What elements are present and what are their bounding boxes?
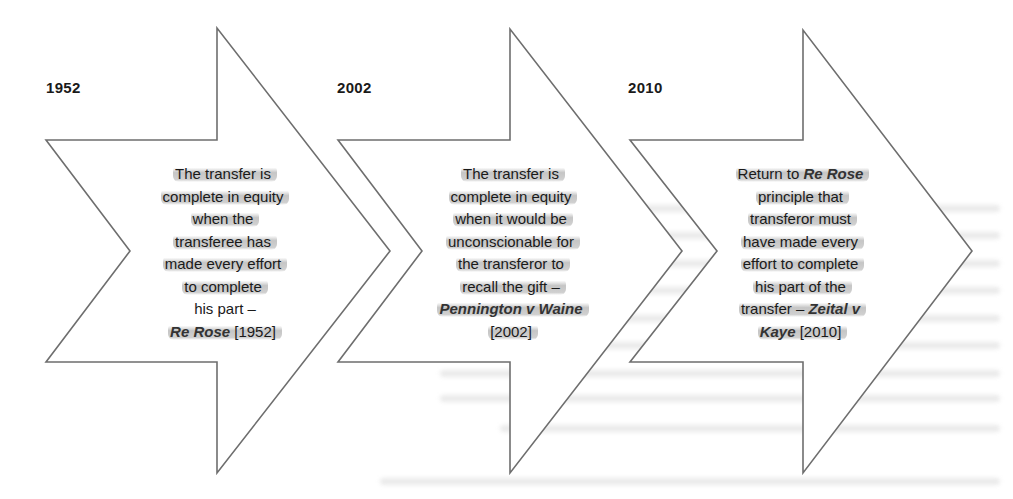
case-citation: Pennington v Waine — [439, 300, 582, 317]
text-line: complete in equity — [161, 188, 290, 205]
case-citation: Re Rose — [170, 323, 230, 340]
text-line: unconscionable for — [446, 233, 580, 250]
text-line: his part of the — [753, 278, 852, 295]
case-citation: Zeital v — [808, 300, 860, 317]
citation-year: [2010] — [795, 323, 841, 340]
text-line: The transfer is — [461, 165, 565, 182]
text-line: recall the gift – — [460, 278, 566, 295]
text-line: have made every — [741, 233, 864, 250]
case-citation: Kaye — [760, 323, 796, 340]
text-line: transferee has — [173, 233, 277, 250]
text-line: when it would be — [453, 210, 573, 227]
text-line: made every effort — [163, 255, 287, 272]
year-label-1952: 1952 — [46, 79, 81, 96]
year-label-2010: 2010 — [628, 79, 663, 96]
text-line: effort to complete — [741, 255, 865, 272]
case-citation: Re Rose — [803, 165, 863, 182]
text-line: when the — [191, 210, 260, 227]
text-line: complete in equity — [449, 188, 578, 205]
citation-year: [2002] — [488, 323, 538, 340]
text-line: transferor must — [748, 210, 857, 227]
text-line: to complete — [182, 278, 268, 295]
stage-description-1952: The transfer is complete in equity when … — [145, 163, 305, 343]
text-line: the transferor to — [456, 255, 570, 272]
text-line: his part – — [194, 300, 256, 317]
text-line: principle that — [756, 188, 849, 205]
text-line: transfer – — [741, 300, 809, 317]
text-line: Return to — [738, 165, 804, 182]
stage-description-2010: Return to Re Rose principle that transfe… — [725, 163, 880, 343]
year-label-2002: 2002 — [337, 79, 372, 96]
text-line: The transfer is — [173, 165, 277, 182]
stage-description-2002: The transfer is complete in equity when … — [428, 163, 598, 343]
citation-year: [1952] — [230, 323, 276, 340]
